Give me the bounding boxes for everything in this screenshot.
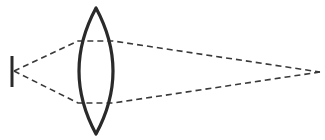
convex-lens [79, 8, 113, 134]
lower-ray [14, 71, 320, 103]
lens-ray-diagram [0, 0, 325, 140]
upper-ray [14, 41, 320, 72]
